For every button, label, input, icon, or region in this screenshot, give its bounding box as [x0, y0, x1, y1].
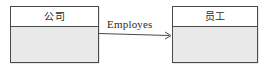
- entity-box-company[interactable]: 公司: [10, 6, 99, 63]
- association-line: [99, 34, 169, 36]
- entity-header-employee: 员工: [173, 7, 257, 27]
- arrowhead-icon: [165, 32, 171, 39]
- entity-body-employee: [173, 27, 257, 62]
- entity-box-employee[interactable]: 员工: [172, 6, 258, 63]
- entity-header-company: 公司: [11, 7, 98, 27]
- entity-title-employee: 员工: [205, 12, 226, 22]
- class-diagram-canvas: 公司 员工 Employes: [0, 0, 270, 72]
- entity-body-company: [11, 27, 98, 62]
- association-label: Employes: [107, 18, 153, 30]
- entity-title-company: 公司: [44, 12, 65, 22]
